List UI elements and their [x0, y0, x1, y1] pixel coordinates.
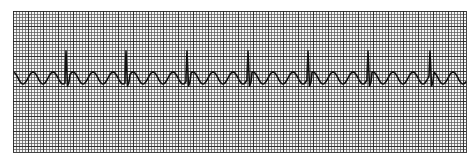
ecg-trace: [0, 0, 475, 162]
ecg-waveform: [14, 51, 466, 86]
